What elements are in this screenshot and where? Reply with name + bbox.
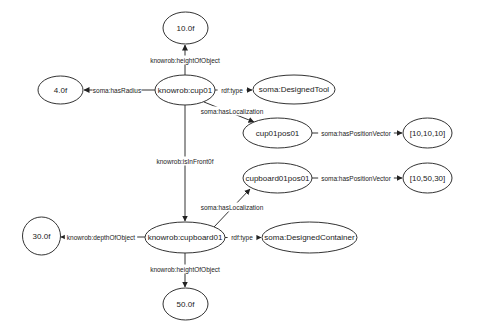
- node-cupboard01pos01[interactable]: cupboard01pos01: [243, 163, 312, 193]
- edge-label: rdf:type: [221, 87, 243, 95]
- node-soma-designedtool[interactable]: soma:DesignedTool: [253, 75, 335, 104]
- node-label: 10.0f: [177, 24, 196, 33]
- edge-label: knowrob:depthOfObject: [67, 234, 135, 242]
- rdf-graph-diagram: knowrob:heightOfObjectsoma:hasRadiusrdf:…: [0, 0, 485, 333]
- edge-label: soma:hasPositionVector: [321, 130, 392, 137]
- edge-label: knowrob:heightOfObject: [150, 57, 220, 65]
- node-label: [10,50,30]: [410, 174, 446, 183]
- nodes-layer: 10.0f4.0fknowrob:cup01soma:DesignedToolc…: [23, 12, 453, 320]
- edge-label: soma:hasRadius: [93, 87, 142, 94]
- edge-label: knowrob:isInFront0f: [156, 158, 213, 165]
- node-10-10-10[interactable]: [10,10,10]: [403, 118, 452, 148]
- node-10-50-30[interactable]: [10,50,30]: [403, 163, 452, 193]
- edge-knowrob-depthofobject: knowrob:depthOfObject: [61, 233, 145, 242]
- edge-label: knowrob:heightOfObject: [150, 266, 220, 274]
- node-label: [10,10,10]: [410, 129, 446, 138]
- edge-label: soma:hasPositionVector: [321, 175, 392, 182]
- node-label: cupboard01pos01: [245, 174, 310, 183]
- node-label: cup01pos01: [256, 129, 300, 138]
- node-label: knowrob:cupboard01: [148, 233, 223, 242]
- node-soma-designedcontainer[interactable]: soma:DesignedContainer: [262, 222, 357, 253]
- edge-rdf-type: rdf:type: [215, 86, 252, 95]
- node-label: 50.0f: [177, 300, 196, 309]
- edge-soma-haspositionvector: soma:hasPositionVector: [312, 129, 402, 138]
- node-10-0f[interactable]: 10.0f: [163, 12, 208, 44]
- node-50-0f[interactable]: 50.0f: [163, 288, 208, 320]
- edge-soma-hasradius: soma:hasRadius: [84, 86, 155, 95]
- edge-soma-haspositionvector: soma:hasPositionVector: [312, 174, 402, 183]
- node-label: 4.0f: [54, 86, 68, 95]
- node-knowrob-cup01[interactable]: knowrob:cup01: [155, 75, 215, 105]
- node-30-0f[interactable]: 30.0f: [23, 217, 61, 255]
- edge-label: soma:hasLocalization: [201, 204, 264, 211]
- edge-label: rdf:type: [231, 234, 253, 242]
- node-label: soma:DesignedContainer: [264, 233, 355, 242]
- edges-layer: knowrob:heightOfObjectsoma:hasRadiusrdf:…: [61, 45, 402, 287]
- node-knowrob-cupboard01[interactable]: knowrob:cupboard01: [145, 222, 225, 253]
- edge-soma-haslocalization: soma:hasLocalization: [198, 189, 267, 227]
- node-4-0f[interactable]: 4.0f: [38, 76, 83, 104]
- edge-rdf-type: rdf:type: [225, 233, 261, 242]
- node-label: 30.0f: [33, 232, 52, 241]
- edge-knowrob-heightofobject: knowrob:heightOfObject: [147, 253, 223, 287]
- edge-soma-haslocalization: soma:hasLocalization: [198, 102, 267, 122]
- node-label: knowrob:cup01: [158, 86, 213, 95]
- node-cup01pos01[interactable]: cup01pos01: [243, 118, 312, 148]
- edge-label: soma:hasLocalization: [201, 108, 264, 115]
- node-label: soma:DesignedTool: [259, 85, 329, 94]
- edge-knowrob-heightofobject: knowrob:heightOfObject: [147, 45, 223, 75]
